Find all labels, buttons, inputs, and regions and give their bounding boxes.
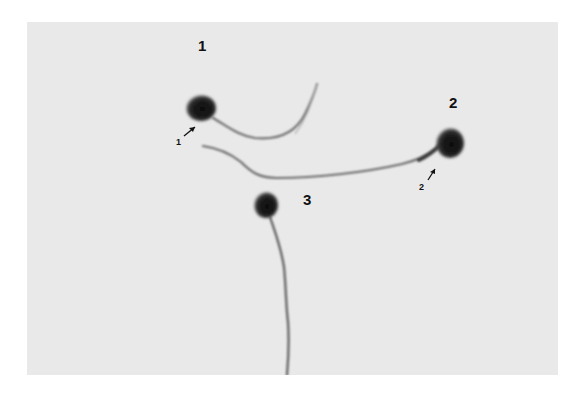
arrow-1-icon (184, 127, 195, 136)
cell-1-head (186, 95, 216, 121)
cell-3-tail (270, 217, 289, 375)
cell-label-2: 2 (449, 95, 457, 110)
micrograph-panel: 1 2 3 1 2 (27, 22, 558, 375)
micrograph-drawing (27, 22, 558, 375)
cell-label-1: 1 (198, 38, 206, 53)
cell-2-head (436, 128, 464, 158)
cell-3-head (254, 192, 278, 218)
cell-1-tail (213, 84, 317, 138)
arrow-2-icon (428, 169, 435, 180)
figure-canvas: 1 2 3 1 2 (0, 0, 587, 393)
arrow-label-1: 1 (176, 138, 181, 147)
cell-label-3: 3 (303, 192, 311, 207)
arrow-label-2: 2 (419, 183, 424, 192)
cell-2-tail (203, 146, 439, 178)
